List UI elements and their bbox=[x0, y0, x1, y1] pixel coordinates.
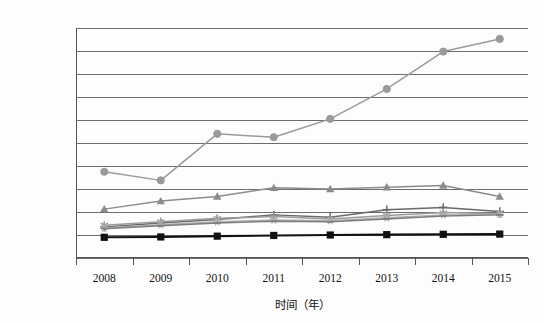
data-point-circle bbox=[440, 48, 447, 55]
series-circle bbox=[101, 35, 504, 184]
x-axis-tick-mark bbox=[528, 258, 529, 265]
x-axis-tick-mark bbox=[472, 258, 473, 265]
data-point-square bbox=[327, 231, 334, 238]
data-point-square bbox=[383, 231, 390, 238]
data-point-square bbox=[496, 230, 503, 237]
data-point-square bbox=[214, 233, 221, 240]
x-axis-tick-mark bbox=[415, 258, 416, 265]
series-square bbox=[101, 230, 504, 240]
data-point-circle bbox=[327, 115, 334, 122]
x-axis-tick-label: 2014 bbox=[413, 272, 473, 284]
x-axis-tick-mark bbox=[189, 258, 190, 265]
x-axis-tick-label: 2011 bbox=[244, 272, 304, 284]
x-axis-tick-label: 2012 bbox=[300, 272, 360, 284]
x-axis-tick-label: 2010 bbox=[187, 272, 247, 284]
line-chart: 02 0004 0006 0008 00010 00012 00014 0001… bbox=[0, 0, 544, 322]
data-point-circle bbox=[383, 85, 390, 92]
data-point-circle bbox=[157, 177, 164, 184]
data-point-circle bbox=[214, 130, 221, 137]
x-axis-tick-mark bbox=[76, 258, 77, 265]
x-axis-tick-mark bbox=[359, 258, 360, 265]
data-point-square bbox=[157, 233, 164, 240]
x-axis-tick-mark bbox=[133, 258, 134, 265]
data-point-square bbox=[101, 234, 108, 241]
data-point-circle bbox=[496, 35, 503, 42]
x-axis-tick-mark bbox=[302, 258, 303, 265]
series-layer bbox=[76, 28, 528, 258]
plot-area: 02 0004 0006 0008 00010 00012 00014 0001… bbox=[76, 28, 528, 258]
x-axis-tick-mark bbox=[246, 258, 247, 265]
x-axis-tick-label: 2013 bbox=[357, 272, 417, 284]
data-point-square bbox=[270, 232, 277, 239]
x-axis-tick-label: 2015 bbox=[470, 272, 530, 284]
x-axis-tick-label: 2008 bbox=[74, 272, 134, 284]
x-axis-tick-label: 2009 bbox=[131, 272, 191, 284]
x-axis-title: 时间（年） bbox=[76, 296, 528, 312]
data-point-circle bbox=[270, 134, 277, 141]
data-point-square bbox=[440, 231, 447, 238]
data-point-circle bbox=[101, 168, 108, 175]
